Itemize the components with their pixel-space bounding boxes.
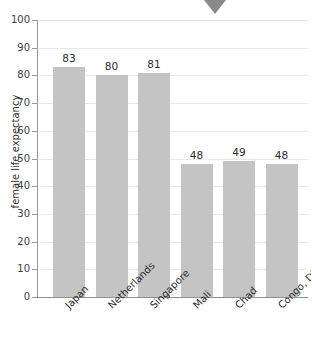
y-tick-90 bbox=[32, 48, 37, 49]
x-label-congo-dr: Congo, DR bbox=[276, 266, 312, 311]
x-label-singapore: Singapore bbox=[148, 267, 191, 310]
bar-value-label-5: 48 bbox=[262, 149, 302, 161]
y-tick-50 bbox=[32, 159, 37, 160]
bar-chart: 1009080706050403020100 female life expec… bbox=[0, 0, 311, 361]
bar-value-label-4: 49 bbox=[219, 146, 259, 158]
x-axis-category-labels: JapanNetherlandsSingaporeMaliChadCongo, … bbox=[0, 0, 311, 361]
bar-value-label-3: 48 bbox=[177, 149, 217, 161]
y-tick-40 bbox=[32, 186, 37, 187]
y-tick-20 bbox=[32, 242, 37, 243]
x-label-mali: Mali bbox=[191, 289, 213, 311]
y-tick-10 bbox=[32, 269, 37, 270]
y-tick-30 bbox=[32, 214, 37, 215]
y-tick-60 bbox=[32, 131, 37, 132]
bar-value-label-2: 81 bbox=[134, 58, 174, 70]
x-label-japan: Japan bbox=[63, 283, 90, 310]
y-tick-0 bbox=[32, 297, 37, 298]
x-label-chad: Chad bbox=[233, 285, 259, 311]
y-tick-100 bbox=[32, 20, 37, 21]
y-tick-80 bbox=[32, 75, 37, 76]
bar-value-label-0: 83 bbox=[49, 52, 89, 64]
y-tick-70 bbox=[32, 103, 37, 104]
bar-value-label-1: 80 bbox=[92, 60, 132, 72]
